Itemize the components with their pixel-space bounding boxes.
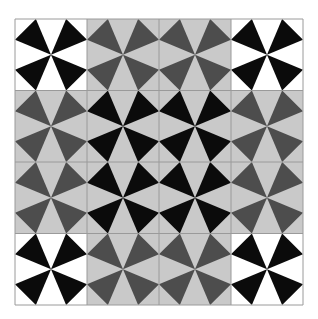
- tile-r1-c2: [159, 91, 231, 163]
- tile-r2-c2: [159, 162, 231, 234]
- tile-r2-c0: [15, 162, 87, 234]
- tile-r1-c0: [15, 91, 87, 163]
- tile-r0-c1: [87, 19, 159, 91]
- pinwheel-tiling-pattern: [0, 0, 318, 319]
- tile-r1-c1: [87, 91, 159, 163]
- tile-r0-c3: [231, 19, 303, 91]
- tile-r2-c1: [87, 162, 159, 234]
- tile-r3-c0: [15, 234, 87, 306]
- tile-r0-c2: [159, 19, 231, 91]
- tile-r3-c3: [231, 234, 303, 306]
- tile-r3-c1: [87, 234, 159, 306]
- tile-r1-c3: [231, 91, 303, 163]
- tile-r0-c0: [15, 19, 87, 91]
- tile-r3-c2: [159, 234, 231, 306]
- tile-r2-c3: [231, 162, 303, 234]
